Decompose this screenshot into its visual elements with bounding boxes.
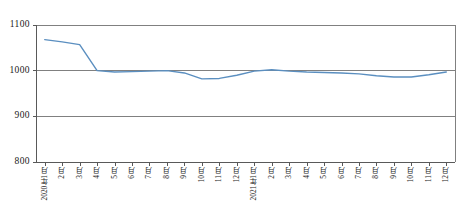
line-chart: 80090010001100 2020年1月2月3月4月5月6月7月8月9月10… <box>0 0 470 224</box>
x-axis-tick-label: 6月 <box>128 168 135 179</box>
x-axis-tick-label: 4月 <box>303 168 310 179</box>
x-axis-tick-label: 10月 <box>407 168 414 182</box>
y-axis-tick-label: 1100 <box>0 19 30 29</box>
x-axis-tick-label: 2月 <box>268 168 275 179</box>
x-axis-tick-label: 12月 <box>233 168 240 182</box>
x-axis-tick-label: 8月 <box>372 168 379 179</box>
chart-plot-area <box>0 0 470 224</box>
y-axis-tick-label: 800 <box>0 156 30 166</box>
x-axis-tick-label: 8月 <box>163 168 170 179</box>
x-axis-tick-label: 2021年1月 <box>250 168 257 200</box>
data-series-line <box>45 40 447 79</box>
x-axis-tick-label: 7月 <box>145 168 152 179</box>
x-axis-tick-label: 7月 <box>355 168 362 179</box>
x-axis-tick-label: 5月 <box>320 168 327 179</box>
y-axis-tick-label: 900 <box>0 110 30 120</box>
x-axis-tick-label: 5月 <box>111 168 118 179</box>
x-axis-tick-label: 10月 <box>198 168 205 182</box>
x-axis-tick-label: 4月 <box>93 168 100 179</box>
x-axis-tick-label: 3月 <box>285 168 292 179</box>
x-axis-tick-label: 11月 <box>425 168 432 182</box>
x-axis-tick-label: 11月 <box>215 168 222 182</box>
x-axis-tick-label: 12月 <box>442 168 449 182</box>
x-axis-tick-label: 9月 <box>180 168 187 179</box>
x-axis-tick-label: 9月 <box>390 168 397 179</box>
x-axis-tick-label: 2月 <box>58 168 65 179</box>
x-axis-tick-label: 6月 <box>338 168 345 179</box>
x-axis-tick-label: 3月 <box>76 168 83 179</box>
y-axis-tick-label: 1000 <box>0 65 30 75</box>
x-axis-tick-label: 2020年1月 <box>41 168 48 200</box>
